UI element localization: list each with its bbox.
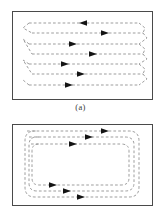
arrowhead-right-1 — [101, 30, 109, 36]
arrowhead-group-b — [49, 128, 109, 200]
turn-right-3 — [139, 54, 147, 64]
panel-a-caption: (a) — [0, 102, 161, 112]
spiral-loop-0 — [25, 131, 139, 197]
spiral-loop-1 — [29, 137, 134, 191]
arrowhead-bottom-loop-0 — [77, 194, 85, 200]
turn-right-1 — [139, 33, 147, 44]
arrowhead-top-loop-2 — [69, 141, 77, 147]
turn-left-6 — [23, 80, 29, 85]
spiral-loop-2 — [31, 144, 129, 185]
arrowhead-right-5 — [77, 71, 85, 77]
arrowhead-bottom-loop-2 — [49, 182, 57, 188]
panel-b-path-diagram — [13, 125, 152, 205]
arrowhead-right-3 — [89, 51, 97, 57]
arrowhead-right-4 — [61, 61, 69, 67]
turn-right-4 — [139, 64, 145, 74]
panel-a-boustrophedon — [12, 11, 153, 100]
turn-right-2 — [139, 44, 145, 54]
turn-left-entry-0 — [23, 23, 32, 33]
figure-root: (a) — [0, 0, 161, 206]
panel-b-spiral — [12, 124, 153, 206]
arrowhead-right-2 — [69, 41, 77, 47]
arrowhead-top-loop-1 — [85, 134, 93, 140]
turn-right-0 — [139, 23, 145, 33]
arrowhead-right-6 — [65, 82, 73, 88]
arrowhead-top-loop-0 — [101, 128, 109, 134]
turn-right-5 — [139, 74, 147, 85]
turn-left-4 — [23, 60, 32, 74]
arrowhead-left-0 — [79, 20, 87, 26]
turn-left-2 — [23, 39, 32, 54]
serpentine-path-group — [23, 23, 147, 85]
panel-a-path-diagram — [13, 12, 152, 99]
spiral-path-group — [25, 131, 139, 197]
arrowhead-bottom-loop-1 — [63, 188, 71, 194]
